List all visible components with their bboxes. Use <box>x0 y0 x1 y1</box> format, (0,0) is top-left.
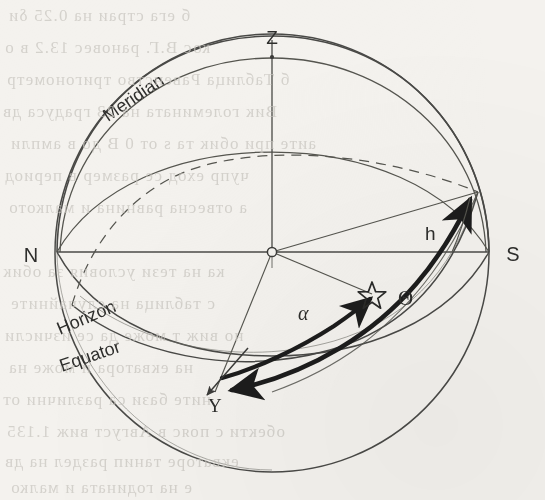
celestial-sphere-figure: б ега страи на 0.25 δи кос В.Г. рановес … <box>0 0 545 500</box>
vernal-equinox-label: Υ <box>208 395 222 416</box>
right-ascension-arc <box>222 299 370 378</box>
north-label: N <box>24 244 38 266</box>
right-ascension-label: α <box>298 302 309 324</box>
hour-angle-label: h <box>425 223 436 244</box>
celestial-sphere-svg: Z N S Meridian Horizon Equator h α Θ Υ <box>0 0 545 500</box>
meridian-label: Meridian <box>99 70 167 125</box>
equator-label: Equator <box>57 336 123 375</box>
zenith-label: Z <box>266 27 278 48</box>
zenith-marker <box>270 55 274 59</box>
equator-front-arc <box>72 192 478 362</box>
observer-center-marker <box>267 247 276 256</box>
radial-lines <box>215 40 478 392</box>
line-to-star <box>272 252 372 294</box>
south-label: S <box>506 243 519 265</box>
sidereal-time-label: Θ <box>398 286 413 310</box>
